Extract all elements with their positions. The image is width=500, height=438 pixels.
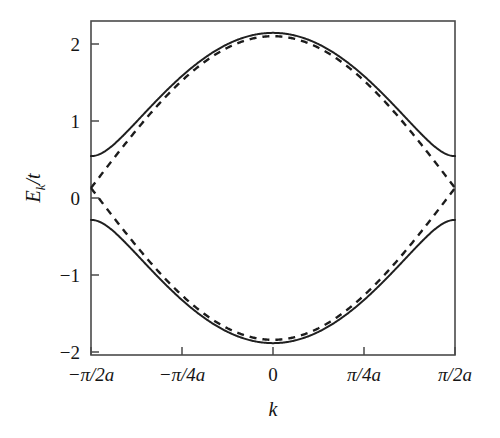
x-tick-label-minus-pi-over-2a: −π/2a	[68, 364, 115, 385]
y-tickmarks	[91, 44, 99, 352]
x-tick-label-zero: 0	[268, 364, 278, 385]
y-tick-label-1: 1	[71, 111, 81, 132]
x-tickmarks	[91, 347, 455, 355]
upper-gapped-band	[91, 33, 455, 156]
x-tick-label-pi-over-2a: π/2a	[438, 364, 472, 385]
lower-gapped-band	[91, 220, 455, 343]
chart-figure: 2 1 0 −1 −2 −π/2a −π/4a 0 π/4a π/2a k Ek…	[0, 0, 500, 438]
y-tick-label-minus-2: −2	[60, 342, 80, 363]
y-tick-label-minus-1: −1	[60, 265, 80, 286]
x-tick-label-minus-pi-over-4a: −π/4a	[159, 364, 206, 385]
svg-text:Ek/t: Ek/t	[22, 173, 48, 204]
curve-group	[91, 33, 455, 343]
dispersion-svg: 2 1 0 −1 −2 −π/2a −π/4a 0 π/4a π/2a k Ek…	[0, 0, 500, 438]
x-tick-label-pi-over-4a: π/4a	[347, 364, 381, 385]
y-tick-label-2: 2	[71, 34, 81, 55]
x-axis-title: k	[269, 398, 279, 420]
y-axis-title: Ek/t	[22, 173, 48, 204]
y-tick-label-0: 0	[71, 188, 81, 209]
plot-frame	[91, 21, 455, 355]
